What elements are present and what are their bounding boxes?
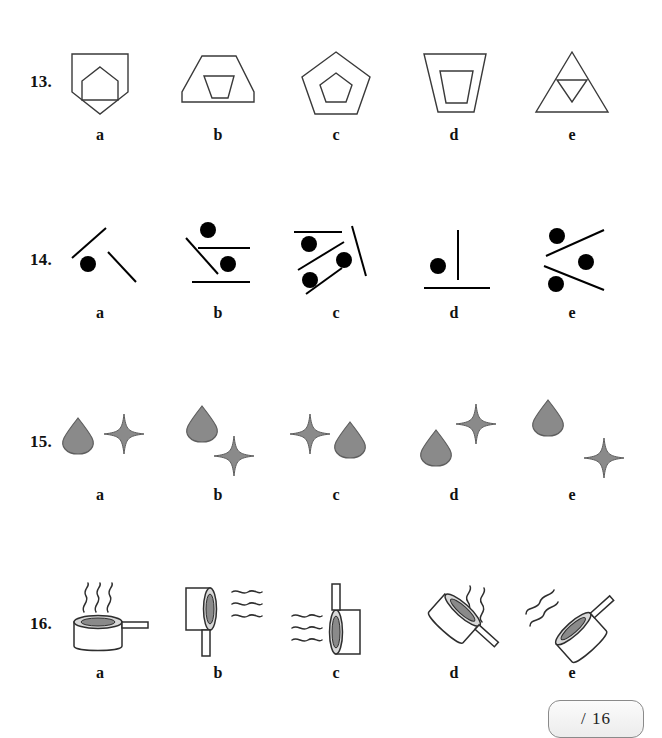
option-14-d-figure <box>394 218 514 304</box>
option-16-d[interactable]: d <box>394 578 514 682</box>
option-letter-13-a: a <box>40 126 160 144</box>
option-13-a-figure <box>40 40 160 126</box>
option-16-d-figure <box>394 578 514 664</box>
score-box[interactable]: / 16 <box>548 700 644 738</box>
option-letter-16-b: b <box>158 664 278 682</box>
option-16-e[interactable]: e <box>512 578 632 682</box>
option-15-e[interactable]: e <box>512 400 632 504</box>
option-13-e[interactable]: e <box>512 40 632 144</box>
option-16-c-figure <box>276 578 396 664</box>
option-letter-16-d: d <box>394 664 514 682</box>
option-15-c[interactable]: c <box>276 400 396 504</box>
option-13-c-figure <box>276 40 396 126</box>
option-15-b-figure <box>158 400 278 486</box>
option-15-a-figure <box>40 400 160 486</box>
option-letter-16-e: e <box>512 664 632 682</box>
option-letter-14-c: c <box>276 304 396 322</box>
option-letter-15-e: e <box>512 486 632 504</box>
option-letter-13-b: b <box>158 126 278 144</box>
option-15-c-figure <box>276 400 396 486</box>
option-14-b-figure <box>158 218 278 304</box>
option-16-e-figure <box>512 578 632 664</box>
option-15-a[interactable]: a <box>40 400 160 504</box>
option-letter-15-b: b <box>158 486 278 504</box>
option-letter-16-c: c <box>276 664 396 682</box>
option-16-b-figure <box>158 578 278 664</box>
option-letter-15-a: a <box>40 486 160 504</box>
option-16-a[interactable]: a <box>40 578 160 682</box>
option-13-e-figure <box>512 40 632 126</box>
option-letter-13-e: e <box>512 126 632 144</box>
option-14-b[interactable]: b <box>158 218 278 322</box>
option-15-d-figure <box>394 400 514 486</box>
option-14-c[interactable]: c <box>276 218 396 322</box>
option-letter-14-a: a <box>40 304 160 322</box>
option-letter-14-e: e <box>512 304 632 322</box>
option-letter-13-d: d <box>394 126 514 144</box>
option-13-a[interactable]: a <box>40 40 160 144</box>
option-letter-14-b: b <box>158 304 278 322</box>
option-13-d-figure <box>394 40 514 126</box>
option-16-a-figure <box>40 578 160 664</box>
option-14-a-figure <box>40 218 160 304</box>
option-letter-14-d: d <box>394 304 514 322</box>
option-16-c[interactable]: c <box>276 578 396 682</box>
worksheet-sheet: 13. a b <box>0 0 662 738</box>
option-13-b-figure <box>158 40 278 126</box>
option-15-e-figure <box>512 400 632 486</box>
score-total-label: / 16 <box>581 709 611 729</box>
option-14-d[interactable]: d <box>394 218 514 322</box>
option-13-c[interactable]: c <box>276 40 396 144</box>
option-letter-16-a: a <box>40 664 160 682</box>
option-14-e-figure <box>512 218 632 304</box>
option-13-b[interactable]: b <box>158 40 278 144</box>
option-14-c-figure <box>276 218 396 304</box>
option-13-d[interactable]: d <box>394 40 514 144</box>
option-15-b[interactable]: b <box>158 400 278 504</box>
option-14-e[interactable]: e <box>512 218 632 322</box>
option-letter-15-c: c <box>276 486 396 504</box>
option-14-a[interactable]: a <box>40 218 160 322</box>
option-16-b[interactable]: b <box>158 578 278 682</box>
option-letter-13-c: c <box>276 126 396 144</box>
option-letter-15-d: d <box>394 486 514 504</box>
option-15-d[interactable]: d <box>394 400 514 504</box>
